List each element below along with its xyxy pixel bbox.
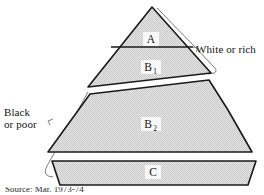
caption-strip: Source: Mar. 1973-74: [0, 187, 264, 195]
region-label-b2-text: B: [144, 118, 152, 130]
region-label-b1: B 1: [141, 60, 161, 76]
region-label-c-text: C: [149, 166, 157, 178]
region-label-b2-sub: 2: [153, 124, 157, 133]
annotation-black-or-poor: Blackor poor: [4, 107, 37, 130]
region-label-a: A: [143, 32, 159, 46]
annotation-white-or-rich: White or rich: [196, 44, 256, 56]
black-or-poor-bracket-tick: [48, 119, 53, 125]
figure-root: A B 1 B 2 C White or rich Blackor poor S…: [0, 0, 264, 195]
caption-fragment: Source: Mar. 1973-74: [5, 187, 84, 194]
stratification-diagram: A B 1 B 2 C: [0, 0, 264, 195]
region-label-c: C: [145, 165, 161, 179]
annotation-black-or-poor-line2: or poor: [4, 118, 37, 130]
region-label-b1-text: B: [144, 61, 152, 73]
region-label-b1-sub: 1: [153, 67, 157, 76]
region-label-b2: B 2: [141, 117, 161, 133]
annotation-black-or-poor-line1: Black: [4, 106, 30, 118]
region-label-a-text: A: [147, 33, 156, 45]
region-b2: [48, 80, 252, 152]
